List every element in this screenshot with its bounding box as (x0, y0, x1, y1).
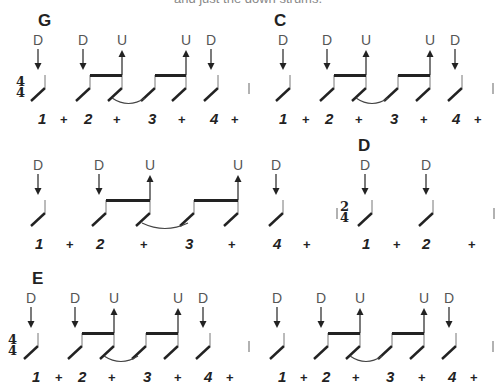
up-arrow-head-icon (357, 308, 364, 315)
and-count: + (226, 370, 234, 385)
slash-notehead (132, 346, 146, 359)
down-arrow-head-icon (96, 188, 103, 195)
tie-arc (356, 98, 388, 104)
and-count: + (302, 112, 310, 127)
and-count: + (60, 112, 68, 127)
down-strum-label: D (94, 157, 104, 173)
strum-notation: G44DDUUD1+2+3+4+CDDUUD1+2+3+4+DDUUD1+2+3… (0, 0, 496, 392)
up-strum-label: U (233, 157, 243, 173)
beat-count: 2 (83, 110, 93, 127)
beat-count: 1 (278, 368, 286, 385)
down-arrow-head-icon (446, 321, 453, 328)
beam (392, 332, 424, 335)
down-arrow-head-icon (362, 188, 369, 195)
down-strum-label: D (70, 290, 80, 306)
beam (328, 332, 360, 335)
up-strum-label: U (173, 290, 183, 306)
beam (106, 199, 150, 202)
down-arrow-head-icon (35, 63, 42, 70)
beat-count: 4 (451, 110, 461, 127)
slash-notehead (270, 346, 284, 359)
slash-notehead (320, 88, 334, 101)
up-strum-label: U (109, 290, 119, 306)
beat-count: 3 (185, 235, 194, 252)
and-count: + (66, 237, 74, 252)
down-strum-label: D (322, 32, 332, 48)
down-strum-label: D (271, 157, 281, 173)
up-arrow-head-icon (183, 50, 190, 57)
slash-notehead (68, 346, 82, 359)
up-arrow-head-icon (421, 308, 428, 315)
down-arrow-head-icon (35, 188, 42, 195)
time-signature-bottom: 4 (16, 85, 25, 100)
down-arrow-head-icon (324, 63, 331, 70)
down-arrow-head-icon (318, 321, 325, 328)
slash-notehead (224, 213, 238, 226)
beat-count: 2 (421, 235, 431, 252)
down-strum-label: D (198, 290, 208, 306)
down-arrow-head-icon (280, 63, 287, 70)
beam (90, 74, 122, 77)
slash-notehead (76, 88, 90, 101)
slash-notehead (196, 346, 210, 359)
up-strum-label: U (361, 32, 371, 48)
down-strum-label: D (316, 290, 326, 306)
slash-notehead (346, 346, 360, 359)
down-strum-label: D (450, 32, 460, 48)
up-strum-label: U (145, 157, 155, 173)
down-strum-label: D (206, 32, 216, 48)
beam (146, 332, 178, 335)
beat-count: 1 (279, 110, 287, 127)
up-arrow-head-icon (111, 308, 118, 315)
and-count: + (420, 112, 428, 127)
slash-notehead (448, 88, 462, 101)
slash-notehead (172, 88, 186, 101)
beat-count: 4 (447, 368, 457, 385)
up-arrow-head-icon (147, 175, 154, 182)
time-signature-bottom: 4 (340, 210, 349, 225)
and-count: + (468, 237, 476, 252)
and-count: + (393, 237, 401, 252)
down-strum-label: D (26, 290, 36, 306)
beat-count: 1 (362, 235, 370, 252)
slash-notehead (410, 346, 424, 359)
tie-arc (112, 98, 145, 104)
down-arrow-head-icon (28, 321, 35, 328)
time-signature-bottom: 4 (8, 343, 17, 358)
slash-notehead (31, 88, 45, 101)
beat-count: 4 (272, 235, 282, 252)
beat-count: 2 (95, 235, 105, 252)
chord-name: G (38, 11, 51, 30)
beam (194, 199, 238, 202)
slash-notehead (100, 346, 114, 359)
down-arrow-head-icon (452, 63, 459, 70)
beat-count: 1 (32, 368, 40, 385)
down-strum-label: D (421, 157, 431, 173)
beat-count: 2 (77, 368, 87, 385)
up-strum-label: U (419, 290, 429, 306)
beat-count: 1 (38, 110, 46, 127)
and-count: + (474, 112, 482, 127)
up-strum-label: U (117, 32, 127, 48)
slash-notehead (164, 346, 178, 359)
slash-notehead (419, 213, 433, 226)
and-count: + (303, 237, 311, 252)
beat-count: 3 (386, 368, 395, 385)
down-strum-label: D (444, 290, 454, 306)
down-strum-label: D (33, 157, 43, 173)
beat-count: 2 (321, 368, 331, 385)
and-count: + (228, 237, 236, 252)
down-arrow-head-icon (274, 321, 281, 328)
up-arrow-head-icon (175, 308, 182, 315)
and-count: + (355, 112, 363, 127)
chord-name: C (274, 11, 286, 30)
down-arrow-head-icon (200, 321, 207, 328)
and-count: + (55, 370, 63, 385)
and-count: + (140, 237, 148, 252)
and-count: + (174, 370, 182, 385)
slash-notehead (31, 213, 45, 226)
beam (398, 74, 430, 77)
slash-notehead (204, 88, 218, 101)
and-count: + (418, 370, 426, 385)
beat-count: 3 (390, 110, 399, 127)
